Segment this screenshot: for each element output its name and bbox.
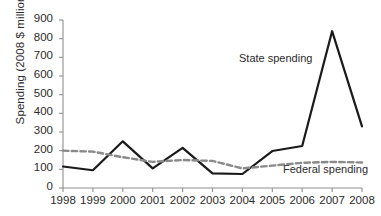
spending-line-chart: Spending (2008 $ millions) 0100200300400… [0, 0, 381, 216]
series-label-federal-spending: Federal spending [283, 163, 368, 175]
series-line-state-spending [63, 31, 362, 174]
series-label-state-spending: State spending [239, 52, 312, 64]
data-series [63, 31, 362, 174]
plot-area [0, 0, 381, 216]
